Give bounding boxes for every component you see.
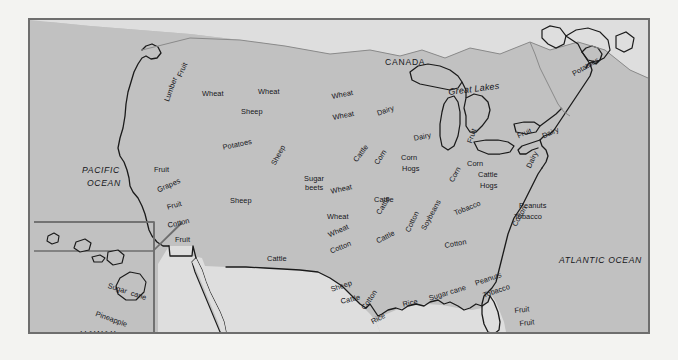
map-screenshot: FruitWheatWheatSheepWheatWheatLumberPota… bbox=[0, 0, 678, 360]
map-frame: FruitWheatWheatSheepWheatWheatLumberPota… bbox=[28, 18, 650, 334]
map-graphics bbox=[30, 20, 648, 332]
